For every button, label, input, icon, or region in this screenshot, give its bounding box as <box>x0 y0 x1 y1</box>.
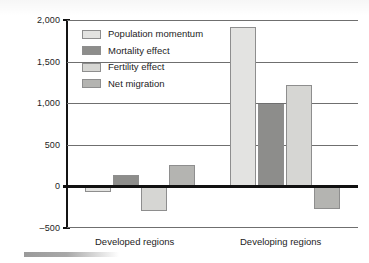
y-tick-2000: 2,000 <box>14 15 60 25</box>
legend-label-mortality-effect: Mortality effect <box>108 46 170 56</box>
bar-developed-fertility-effect <box>141 186 167 211</box>
bar-developing-population-momentum <box>230 27 256 187</box>
y-tick-neg500: –500 <box>14 223 60 233</box>
bar-developing-mortality-effect <box>258 104 284 186</box>
category-label-developed: Developed regions <box>95 236 174 247</box>
legend-item-mortality-effect: Mortality effect <box>82 44 203 58</box>
scan-artifact-bar <box>24 252 119 257</box>
gridline-500 <box>67 145 358 146</box>
legend-swatch-fertility-effect <box>82 63 101 72</box>
gridline-1000 <box>67 103 358 104</box>
legend-item-net-migration: Net migration <box>82 77 203 91</box>
bar-developed-net-migration <box>169 165 195 187</box>
legend-swatch-net-migration <box>82 79 101 88</box>
bar-developing-fertility-effect <box>286 85 312 187</box>
legend-item-fertility-effect: Fertility effect <box>82 60 203 74</box>
legend-item-population-momentum: Population momentum <box>82 27 203 41</box>
y-tick-500: 500 <box>14 140 60 150</box>
gridline-neg500 <box>67 227 358 228</box>
legend-label-fertility-effect: Fertility effect <box>108 62 164 72</box>
category-label-developing: Developing regions <box>240 236 321 247</box>
legend-label-population-momentum: Population momentum <box>108 29 203 39</box>
zero-baseline <box>63 185 358 188</box>
y-tick-1500: 1,500 <box>14 57 60 67</box>
chart-legend: Population momentum Mortality effect Fer… <box>82 27 203 93</box>
bar-developing-net-migration <box>314 186 340 209</box>
gridline-2000 <box>67 20 358 21</box>
bar-chart: Population change in millions 2,000 1,50… <box>0 0 369 263</box>
y-axis-ticks: 2,000 1,500 1,000 500 0 –500 <box>0 0 60 263</box>
y-tick-1000: 1,000 <box>14 98 60 108</box>
legend-swatch-mortality-effect <box>82 46 101 55</box>
y-tick-0: 0 <box>14 181 60 191</box>
legend-swatch-population-momentum <box>82 30 101 39</box>
legend-label-net-migration: Net migration <box>108 79 165 89</box>
